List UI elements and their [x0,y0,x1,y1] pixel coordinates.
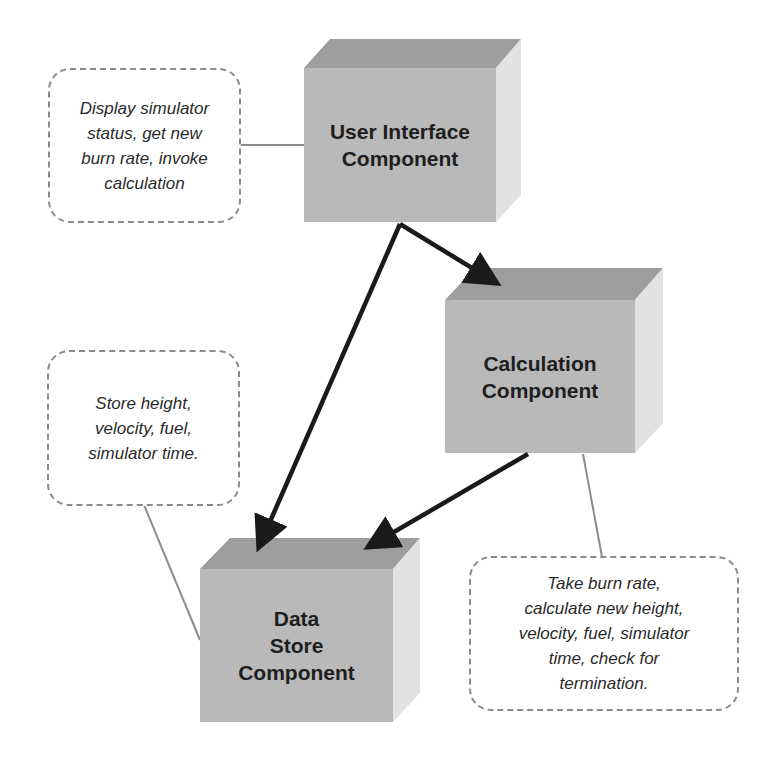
arrow-ui-to-calc [400,224,490,279]
cube-side-face [393,538,420,722]
arrow-calc-to-store [375,454,528,543]
arrow-ui-to-store [262,224,400,540]
cube-label-data-store: Data Store Component [200,569,393,722]
cube-top-face [304,39,521,68]
note-calculation: Take burn rate, calculate new height, ve… [469,556,739,711]
note-data-store: Store height, velocity, fuel, simulator … [47,350,240,506]
note-user-interface: Display simulator status, get new burn r… [48,68,241,223]
connector-store-note [144,505,200,640]
cube-label-calculation: Calculation Component [445,300,635,453]
connector-calc-note [583,454,602,557]
cube-side-face [635,268,663,453]
cube-label-user-interface: User Interface Component [304,68,496,222]
cube-top-face [200,538,420,569]
cube-side-face [496,39,521,222]
